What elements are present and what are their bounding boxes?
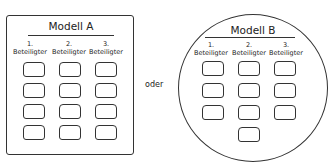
- model-b-title: Modell B: [228, 24, 278, 36]
- col-number: 2.: [51, 40, 87, 48]
- model-a-title: Modell A: [46, 20, 96, 32]
- model-b-slot: [238, 127, 260, 142]
- model-b-slot: [274, 105, 296, 120]
- model-b-slot: [202, 61, 224, 76]
- model-b-slot: [238, 61, 260, 76]
- col-label: Beteiligter: [12, 48, 48, 56]
- model-b-slot: [202, 83, 224, 98]
- col-number: 3.: [88, 40, 124, 48]
- col-label: Beteiligter: [88, 48, 124, 56]
- model-b-title-rule: [205, 37, 295, 38]
- model-b-slot: [238, 83, 260, 98]
- col-label: Beteiligter: [268, 49, 304, 57]
- model-a-col-2-header: 2. Beteiligter: [51, 40, 87, 56]
- model-a-slot: [59, 83, 81, 98]
- model-a-slot: [23, 104, 45, 119]
- model-b-slot: [202, 105, 224, 120]
- model-b-slot: [238, 105, 260, 120]
- model-a-slot: [95, 125, 117, 140]
- col-number: 3.: [268, 41, 304, 49]
- col-number: 1.: [193, 41, 229, 49]
- model-a-slot: [95, 83, 117, 98]
- model-a-slot: [59, 104, 81, 119]
- model-a-title-rule: [28, 35, 114, 36]
- col-label: Beteiligter: [231, 49, 267, 57]
- model-b-col-3-header: 3. Beteiligter: [268, 41, 304, 57]
- model-a-col-3-header: 3. Beteiligter: [88, 40, 124, 56]
- col-label: Beteiligter: [51, 48, 87, 56]
- model-a-col-1-header: 1. Beteiligter: [12, 40, 48, 56]
- model-b-col-2-header: 2. Beteiligter: [231, 41, 267, 57]
- model-a-slot: [95, 62, 117, 77]
- model-a-slot: [59, 62, 81, 77]
- model-a-slot: [23, 83, 45, 98]
- col-number: 2.: [231, 41, 267, 49]
- model-b-col-1-header: 1. Beteiligter: [193, 41, 229, 57]
- model-b-slot: [274, 61, 296, 76]
- model-a-slot: [23, 62, 45, 77]
- model-a-slot: [23, 125, 45, 140]
- col-number: 1.: [12, 40, 48, 48]
- model-a-slot: [59, 125, 81, 140]
- connector-oder: oder: [145, 80, 163, 89]
- col-label: Beteiligter: [193, 49, 229, 57]
- model-b-slot: [274, 83, 296, 98]
- model-a-slot: [95, 104, 117, 119]
